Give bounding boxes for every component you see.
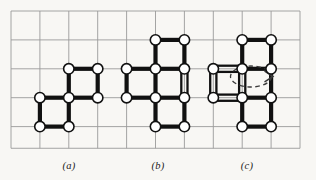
figure-container: (a) (b) (c) [0,0,316,180]
figure-background [0,0,316,180]
panel-label-a: (a) [63,160,76,171]
lattice-diagram-svg [0,0,316,180]
panel-label-c: (c) [241,160,253,171]
panel-label-b: (b) [152,160,165,171]
